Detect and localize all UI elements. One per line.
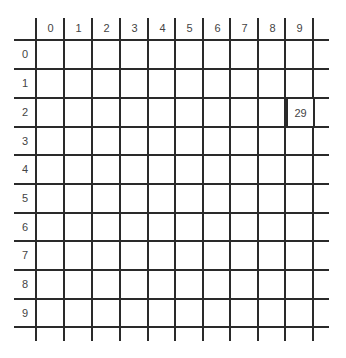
grid-horizontal-line	[14, 240, 329, 242]
row-header: 0	[14, 49, 36, 60]
grid-horizontal-line	[14, 269, 329, 271]
column-header: 5	[176, 23, 203, 34]
row-header: 3	[14, 136, 36, 147]
column-header: 0	[37, 23, 64, 34]
column-header: 9	[286, 23, 313, 34]
column-header: 6	[204, 23, 231, 34]
grid-vertical-line	[257, 18, 259, 341]
column-header: 7	[231, 23, 258, 34]
row-header: 2	[14, 107, 36, 118]
grid-horizontal-line	[14, 154, 329, 156]
column-header: 8	[259, 23, 286, 34]
grid-horizontal-line	[14, 212, 329, 214]
grid-horizontal-line	[14, 68, 329, 70]
grid-horizontal-line	[14, 97, 329, 99]
grid-vertical-line	[91, 18, 93, 341]
grid-horizontal-line	[14, 126, 329, 128]
row-header: 9	[14, 308, 36, 319]
grid-vertical-line	[119, 18, 121, 341]
column-header: 3	[121, 23, 148, 34]
column-header: 4	[149, 23, 176, 34]
column-header: 1	[65, 23, 92, 34]
grid-vertical-line	[147, 18, 149, 341]
row-header: 7	[14, 250, 36, 261]
row-header: 4	[14, 164, 36, 175]
row-header: 6	[14, 222, 36, 233]
row-header: 8	[14, 279, 36, 290]
grid-vertical-line	[202, 18, 204, 341]
grid-vertical-line	[63, 18, 65, 341]
grid-vertical-line	[284, 18, 286, 341]
grid-vertical-line	[229, 18, 231, 341]
grid-vertical-line	[312, 18, 314, 341]
grid-vertical-line	[35, 18, 37, 341]
grid-horizontal-line	[14, 183, 329, 185]
highlighted-cell: 29	[286, 97, 315, 128]
grid-vertical-line	[174, 18, 176, 341]
row-header: 5	[14, 193, 36, 204]
grid-horizontal-line	[14, 39, 329, 41]
grid-horizontal-line	[14, 326, 329, 328]
column-header: 2	[93, 23, 120, 34]
grid-horizontal-line	[14, 298, 329, 300]
row-header: 1	[14, 78, 36, 89]
